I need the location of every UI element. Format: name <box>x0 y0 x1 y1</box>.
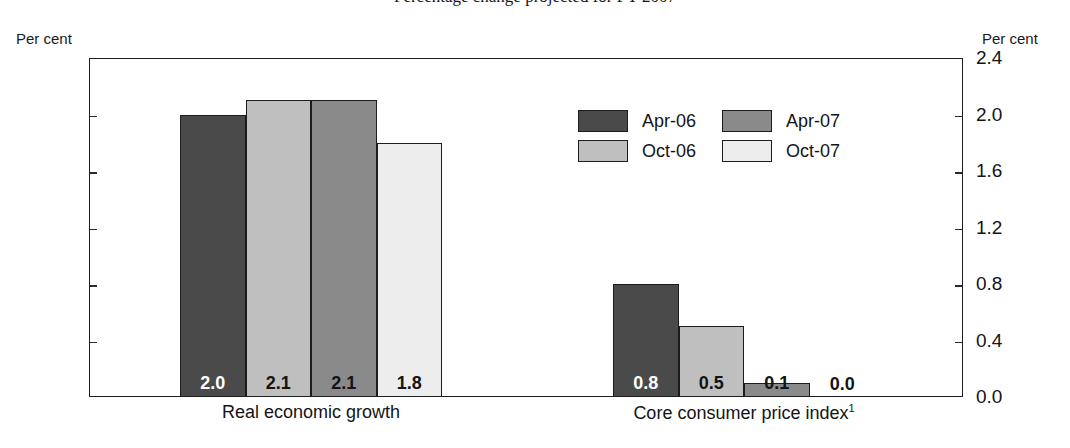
bar: 0.5 <box>679 326 745 397</box>
right-axis-tick-label: 1.2 <box>976 218 1002 237</box>
legend-label: Oct-06 <box>642 141 708 162</box>
bar: 2.1 <box>246 100 312 397</box>
category-axis-label: Core consumer price index1 <box>613 402 875 424</box>
right-axis-tick-label: 0.4 <box>976 331 1002 350</box>
legend-label: Oct-07 <box>786 141 852 162</box>
bar-value-label: 0.0 <box>810 375 876 393</box>
right-axis-tick-mark <box>955 285 962 287</box>
right-axis-tick-mark <box>955 172 962 174</box>
legend-swatch <box>578 110 628 132</box>
chart-title: Percentage change projected for FY 2007 <box>0 0 1070 7</box>
left-axis-tick-mark <box>90 285 97 287</box>
right-axis-tick-mark <box>955 229 962 231</box>
legend-label: Apr-06 <box>642 111 708 132</box>
bar-value-label: 0.1 <box>745 374 809 392</box>
left-axis-tick-mark <box>90 342 97 344</box>
bar: 1.8 <box>377 143 443 397</box>
bar-value-label: 0.8 <box>614 374 678 392</box>
bar: 2.1 <box>311 100 377 397</box>
left-axis-tick-mark <box>90 116 97 118</box>
bar-value-label: 2.1 <box>312 374 376 392</box>
legend-swatch <box>722 110 772 132</box>
right-axis-tick-mark <box>955 342 962 344</box>
right-axis-tick-label: 0.8 <box>976 274 1002 293</box>
legend-swatch <box>578 140 628 162</box>
category-axis-label: Real economic growth <box>180 402 442 423</box>
bar-value-label: 2.0 <box>181 374 245 392</box>
bar-value-label: 0.5 <box>680 374 744 392</box>
legend-label: Apr-07 <box>786 111 852 132</box>
bar: 0.1 <box>744 383 810 397</box>
legend-swatch <box>722 140 772 162</box>
left-axis-tick-mark <box>90 172 97 174</box>
right-axis-tick-label: 1.6 <box>976 161 1002 180</box>
right-axis-tick-label: 2.0 <box>976 105 1002 124</box>
right-axis-tick-label: 2.4 <box>976 48 1002 67</box>
right-axis-tick-label: 0.0 <box>976 387 1002 406</box>
right-axis-unit-label: Per cent <box>982 30 1038 47</box>
bar: 2.0 <box>180 115 246 398</box>
bar-value-label: 2.1 <box>247 374 311 392</box>
chart-legend: Apr-06Apr-07Oct-06Oct-07 <box>578 110 852 162</box>
left-axis-tick-mark <box>90 229 97 231</box>
right-axis-tick-mark <box>955 116 962 118</box>
left-axis-unit-label: Per cent <box>16 30 72 47</box>
bar: 0.8 <box>613 284 679 397</box>
footnote-marker: 1 <box>848 402 854 414</box>
bar-value-label: 1.8 <box>378 374 442 392</box>
